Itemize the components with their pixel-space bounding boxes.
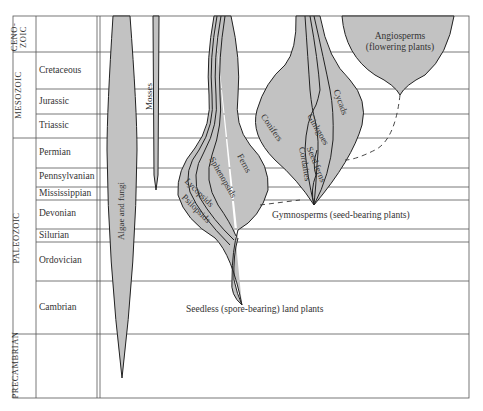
- annotation-seedless: Seedless (spore-bearing) land plants: [186, 304, 323, 314]
- era-precambrian: Precambrian: [10, 332, 20, 399]
- period-cretaceous: Cretaceous: [39, 65, 81, 75]
- period-triassic: Triassic: [39, 120, 69, 130]
- label-algae-fungi: Algae and fungi: [116, 182, 126, 240]
- gymno-connector: [260, 200, 300, 205]
- period-pennsylvanian: Pennsylvanian: [39, 171, 94, 181]
- era-paleozoic: Paleozoic: [11, 213, 21, 264]
- period-silurian: Silurian: [39, 230, 69, 240]
- era-cenozoic: Ceno- zoic: [10, 23, 28, 51]
- period-jurassic: Jurassic: [39, 96, 69, 106]
- period-permian: Permian: [39, 147, 71, 157]
- label-mosses: Mosses: [144, 83, 154, 110]
- era-mesozoic: Mesozoic: [13, 71, 23, 118]
- seedless-plants-shape: [178, 16, 268, 305]
- angiosperms-shape: [342, 16, 454, 95]
- era-cenozoic-line2: zoic: [19, 23, 28, 51]
- period-mississippian: Mississippian: [39, 188, 91, 198]
- period-ordovician: Ordovician: [39, 255, 82, 265]
- period-devonian: Devonian: [39, 208, 76, 218]
- angiosperms-line2: (flowering plants): [360, 42, 440, 53]
- label-angiosperms: Angiosperms (flowering plants): [360, 31, 440, 53]
- evolution-diagram: [0, 0, 483, 411]
- angiosperms-line1: Angiosperms: [360, 31, 440, 42]
- period-cambrian: Cambrian: [39, 302, 76, 312]
- annotation-gymnosperms: Gymnosperms (seed-bearing plants): [272, 210, 410, 220]
